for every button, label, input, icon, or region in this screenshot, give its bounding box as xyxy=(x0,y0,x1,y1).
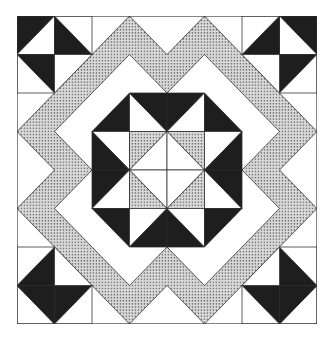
quilt-block-diagram xyxy=(17,16,317,324)
center-star xyxy=(92,93,242,247)
